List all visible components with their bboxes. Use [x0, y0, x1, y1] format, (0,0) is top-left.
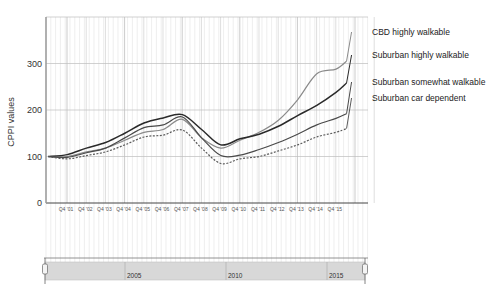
chart: 0100200300CPPI valuesQ4 '01Q4 '02Q4 '03Q… [0, 0, 504, 295]
legend-connector [347, 98, 352, 129]
timeline-year-label: 2015 [329, 272, 344, 279]
x-tick-label: Q4 '03 [97, 206, 112, 212]
x-tick-label: Q4 '10 [232, 206, 247, 212]
series-line-cbd-highly-walkable [48, 61, 347, 157]
y-axis-title: CPPI values [6, 97, 16, 147]
y-tick-label: 300 [27, 59, 42, 69]
series-lines [48, 61, 347, 164]
x-tick-label: Q4 '01 [59, 206, 74, 212]
y-tick-label: 200 [27, 105, 42, 115]
series-line-suburban-somewhat-walkable [48, 114, 347, 158]
timeline-year-label: 2005 [127, 272, 142, 279]
x-tick-label: Q4 '06 [155, 206, 170, 212]
x-tick-label: Q4 '02 [78, 206, 93, 212]
legend-connector [347, 82, 352, 114]
y-tick-label: 100 [27, 152, 42, 162]
x-tick-label: Q4 '14 [308, 206, 323, 212]
handle-grip-icon[interactable] [43, 264, 48, 274]
timeline-scrubber[interactable]: 200520102015 [43, 258, 368, 284]
legend-label: Suburban highly walkable [372, 50, 469, 60]
x-tick-label: Q4 '13 [289, 206, 304, 212]
legend-label: Suburban somewhat walkable [372, 77, 486, 87]
x-tick-label: Q4 '11 [251, 206, 265, 212]
legend-label: Suburban car dependent [372, 93, 466, 103]
x-tick-label: Q4 '15 [328, 206, 343, 212]
handle-grip-icon[interactable] [363, 264, 368, 274]
x-tick-label: Q4 '04 [116, 206, 131, 212]
timeline-year-label: 2010 [228, 272, 243, 279]
x-tick-label: Q4 '08 [193, 206, 208, 212]
x-tick-label: Q4 '07 [174, 206, 189, 212]
x-tick-label: Q4 '12 [270, 206, 285, 212]
x-tick-label: Q4 '05 [136, 206, 151, 212]
y-tick-label: 0 [37, 198, 42, 208]
legend-label: CBD highly walkable [372, 27, 450, 37]
timeline-track[interactable] [45, 262, 365, 280]
x-tick-label: Q4 '09 [212, 206, 227, 212]
